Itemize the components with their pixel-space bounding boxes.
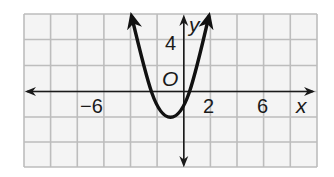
x-axis-label: x	[295, 94, 308, 117]
coordinate-graph: −6 2 6 4 O y x	[0, 0, 334, 177]
y-tick-label-4: 4	[165, 32, 176, 54]
x-tick-label-neg6: −6	[80, 95, 103, 117]
x-tick-label-6: 6	[257, 95, 268, 117]
origin-label: O	[162, 67, 178, 90]
x-tick-label-2: 2	[203, 95, 214, 117]
y-axis-label: y	[187, 13, 201, 36]
